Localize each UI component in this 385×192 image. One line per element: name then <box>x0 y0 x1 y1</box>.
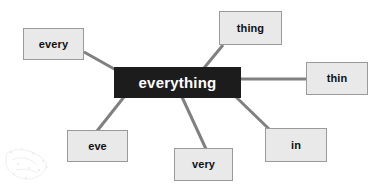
leaf-node-eve[interactable]: eve <box>67 130 128 162</box>
leaf-node-label: thing <box>237 23 264 34</box>
connector-every <box>84 52 116 70</box>
leaf-node-label: very <box>192 159 215 170</box>
leaf-node-in[interactable]: in <box>265 128 327 162</box>
leaf-node-very[interactable]: very <box>174 148 233 181</box>
connector-thing <box>204 45 223 68</box>
connector-eve <box>97 97 124 131</box>
center-node-everything[interactable]: everything <box>114 67 241 98</box>
word-web-diagram: everything every thing thin in very eve <box>0 0 385 192</box>
leaf-node-label: eve <box>88 141 107 152</box>
center-node-label: everything <box>139 75 217 90</box>
connector-very <box>182 97 206 149</box>
leaf-node-every[interactable]: every <box>23 28 84 60</box>
leaf-node-label: in <box>291 140 301 151</box>
leaf-node-label: every <box>39 39 68 50</box>
leaf-node-thing[interactable]: thing <box>219 11 282 45</box>
leaf-node-label: thin <box>327 73 348 84</box>
paper-smudge-artifact <box>2 140 64 188</box>
leaf-node-thin[interactable]: thin <box>306 62 368 95</box>
connector-in <box>236 97 269 129</box>
